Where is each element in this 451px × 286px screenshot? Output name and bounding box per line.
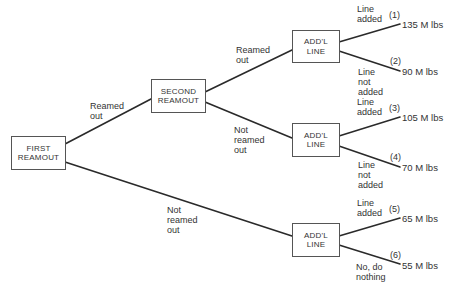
label-line: added [357, 208, 382, 218]
label-line: Reamed [90, 101, 124, 111]
branch-label-bottom-added: Line added [357, 198, 382, 218]
node-label-line1: ADD'L [304, 131, 328, 141]
node-label-line2: LINE [307, 47, 326, 57]
node-label-line1: SECOND [161, 87, 196, 97]
branch-line-outcome-3 [339, 117, 400, 136]
outcome-6-number: (6) [390, 250, 401, 260]
label-line: not [358, 170, 383, 180]
decision-tree: FIRST REAMOUT SECOND REAMOUT ADD'L LINE … [0, 0, 451, 286]
node-addl-line-mid: ADD'L LINE [292, 123, 340, 157]
label-line: Reamed [236, 45, 270, 55]
label-line: Line [357, 198, 382, 208]
branch-label-second-not-reamed: Not reamed out [234, 125, 265, 155]
label-line: Not [234, 125, 265, 135]
outcome-2-value: 90 M lbs [402, 67, 438, 77]
node-label-line2: REAMOUT [158, 96, 199, 106]
branch-label-mid-added: Line added [357, 97, 382, 117]
label-line: not [358, 77, 383, 87]
node-addl-line-bottom: ADD'L LINE [292, 223, 340, 257]
outcome-5-number: (5) [389, 204, 400, 214]
node-second-reamout: SECOND REAMOUT [151, 79, 206, 113]
branch-label-first-reamed: Reamed out [90, 101, 124, 121]
branch-label-first-not-reamed: Not reamed out [167, 205, 198, 235]
outcome-4-number: (4) [390, 152, 401, 162]
outcome-4-value: 70 M lbs [402, 163, 438, 173]
branch-line-outcome-1 [339, 24, 400, 42]
label-line: Line [357, 97, 382, 107]
outcome-3-value: 105 M lbs [402, 113, 443, 123]
node-first-reamout: FIRST REAMOUT [11, 136, 66, 170]
node-label-line2: LINE [307, 140, 326, 150]
label-line: Not [167, 205, 198, 215]
outcome-6-value: 55 M lbs [402, 261, 438, 271]
node-label-line1: ADD'L [304, 37, 328, 47]
node-label-line2: LINE [307, 240, 326, 250]
node-label-line1: ADD'L [304, 231, 328, 241]
node-addl-line-top: ADD'L LINE [292, 30, 340, 63]
node-label-line2: REAMOUT [18, 153, 59, 163]
branch-label-bottom-nothing: No, do nothing [356, 262, 386, 282]
label-line: added [358, 180, 383, 190]
label-line: out [90, 111, 124, 121]
label-line: out [167, 225, 198, 235]
connector-lines [0, 0, 451, 286]
label-line: Line [357, 4, 382, 14]
outcome-1-value: 135 M lbs [402, 20, 443, 30]
node-label-line1: FIRST [26, 144, 50, 154]
label-line: nothing [356, 272, 386, 282]
label-line: reamed [167, 215, 198, 225]
outcome-5-value: 65 M lbs [402, 214, 438, 224]
outcome-1-number: (1) [389, 10, 400, 20]
label-line: No, do [356, 262, 386, 272]
branch-label-second-reamed: Reamed out [236, 45, 270, 65]
branch-label-top-not-added: Line not added [358, 67, 383, 97]
label-line: out [234, 145, 265, 155]
branch-label-top-added: Line added [357, 4, 382, 24]
label-line: added [358, 87, 383, 97]
label-line: Line [358, 67, 383, 77]
branch-label-mid-not-added: Line not added [358, 160, 383, 190]
label-line: added [357, 14, 382, 24]
outcome-2-number: (2) [390, 56, 401, 66]
label-line: Line [358, 160, 383, 170]
branch-line-outcome-5 [339, 218, 400, 236]
label-line: reamed [234, 135, 265, 145]
label-line: out [236, 55, 270, 65]
outcome-3-number: (3) [389, 103, 400, 113]
label-line: added [357, 107, 382, 117]
